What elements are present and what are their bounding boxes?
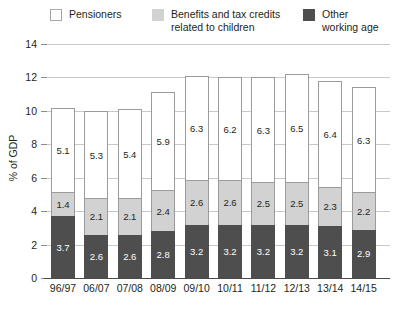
bar-segment[interactable]: 6.5: [285, 74, 309, 183]
bar-stack[interactable]: 2.82.45.9: [151, 0, 175, 278]
plot-area: % of GDP 024681012143.71.45.196/972.62.1…: [0, 0, 397, 311]
bar-segment[interactable]: 2.5: [285, 183, 309, 225]
y-axis-tick: [41, 144, 47, 145]
y-axis-tick: [41, 245, 47, 246]
bar-stack[interactable]: 2.62.15.3: [84, 0, 108, 278]
bar-segment[interactable]: 5.3: [84, 111, 108, 200]
x-axis-tick-label: 14/15: [343, 282, 385, 294]
y-axis-tick: [41, 44, 47, 45]
bar-segment[interactable]: 2.9: [352, 230, 376, 278]
x-axis-line: [44, 278, 390, 279]
bar-segment[interactable]: 2.8: [151, 231, 175, 278]
bar-stack[interactable]: 3.22.66.3: [185, 0, 209, 278]
y-axis-tick-label: 0: [0, 273, 37, 283]
bar-stack[interactable]: 3.12.36.4: [318, 0, 342, 278]
bar-segment[interactable]: 3.2: [218, 225, 242, 278]
bar-segment[interactable]: 6.3: [352, 87, 376, 192]
bar-stack[interactable]: 3.71.45.1: [51, 0, 75, 278]
y-axis-tick-label: 6: [0, 173, 37, 183]
y-axis-tick: [41, 211, 47, 212]
bar-stack[interactable]: 2.92.26.3: [352, 0, 376, 278]
bar-segment[interactable]: 3.1: [318, 226, 342, 278]
bar-segment[interactable]: 6.2: [218, 77, 242, 181]
bar-segment[interactable]: 3.2: [285, 225, 309, 278]
bar-segment[interactable]: 6.3: [251, 77, 275, 182]
bar-segment[interactable]: 5.4: [118, 109, 142, 199]
y-axis-tick-label: 4: [0, 206, 37, 216]
bar-stack[interactable]: 3.22.56.3: [251, 0, 275, 278]
y-axis-tick-label: 8: [0, 139, 37, 149]
bar-segment[interactable]: 2.6: [218, 181, 242, 224]
bar-segment[interactable]: 2.5: [251, 183, 275, 225]
bar-stack[interactable]: 3.22.56.5: [285, 0, 309, 278]
bar-segment[interactable]: 2.3: [318, 188, 342, 226]
y-axis-tick: [41, 77, 47, 78]
bar-segment[interactable]: 6.4: [318, 81, 342, 188]
chart-container: PensionersBenefits and tax credits relat…: [0, 0, 397, 311]
y-axis-tick: [41, 111, 47, 112]
bar-segment[interactable]: 5.1: [51, 108, 75, 193]
bar-segment[interactable]: 2.6: [84, 235, 108, 278]
bar-segment[interactable]: 5.9: [151, 92, 175, 191]
y-axis-tick: [41, 178, 47, 179]
y-axis-tick-label: 12: [0, 72, 37, 82]
bar-segment[interactable]: 2.2: [352, 193, 376, 230]
y-axis-tick-label: 14: [0, 39, 37, 49]
bar-segment[interactable]: 6.3: [185, 76, 209, 181]
bar-stack[interactable]: 2.62.15.4: [118, 0, 142, 278]
bar-segment[interactable]: 2.4: [151, 191, 175, 231]
y-axis-tick-label: 2: [0, 240, 37, 250]
bar-segment[interactable]: 2.1: [84, 199, 108, 234]
bar-segment[interactable]: 2.6: [185, 181, 209, 224]
bar-segment[interactable]: 2.6: [118, 235, 142, 278]
bar-stack[interactable]: 3.22.66.2: [218, 0, 242, 278]
bar-segment[interactable]: 2.1: [118, 199, 142, 234]
bar-segment[interactable]: 1.4: [51, 193, 75, 216]
bar-segment[interactable]: 3.7: [51, 216, 75, 278]
y-axis-tick-label: 10: [0, 106, 37, 116]
bar-segment[interactable]: 3.2: [251, 225, 275, 278]
bar-segment[interactable]: 3.2: [185, 225, 209, 278]
